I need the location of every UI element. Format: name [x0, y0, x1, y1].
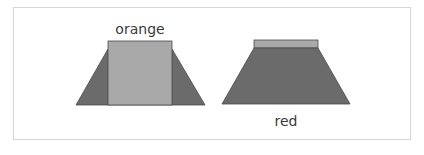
left-shape-orange: [76, 41, 205, 105]
left-light-rectangle: [108, 41, 172, 105]
right-trapezoid: [222, 48, 350, 104]
right-light-strip: [254, 40, 318, 48]
right-shape-red: [222, 40, 350, 104]
label-red: red: [236, 113, 336, 129]
label-orange: orange: [90, 21, 190, 37]
diagram-canvas: [0, 0, 424, 155]
